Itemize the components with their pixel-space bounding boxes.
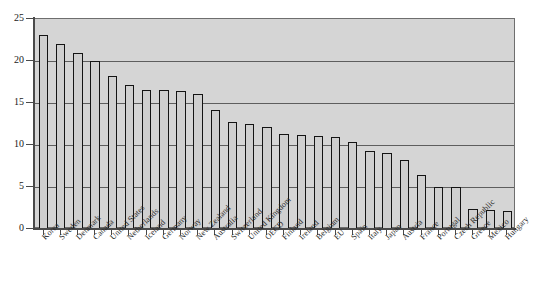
bar [314,136,323,229]
y-tick-label: 15 [2,97,24,107]
y-tick-label: 5 [2,181,24,191]
bar [365,151,374,229]
bar [90,61,99,229]
bar [297,135,306,229]
bar [400,160,409,229]
bar-chart-figure: 0510152025 KoreaSwedenDenmarkCanadaUnite… [0,0,533,295]
bar [348,142,357,229]
y-axis-tick-labels: 0510152025 [0,0,24,295]
bar [108,76,117,229]
gridline-20 [35,61,514,62]
y-tick-20 [26,60,34,61]
y-tick-25 [26,18,34,19]
y-tick-label: 0 [2,223,24,233]
y-tick-label: 10 [2,139,24,149]
bar [159,90,168,229]
y-tick-label: 25 [2,13,24,23]
plot-area [34,18,515,228]
bar [56,44,65,229]
bar [279,134,288,229]
bar [193,94,202,229]
y-tick-label: 20 [2,55,24,65]
bar [125,85,134,229]
bar [73,53,82,229]
bar [382,153,391,229]
bar [176,91,185,229]
bar [39,35,48,229]
y-axis-line [33,17,35,229]
y-tick-5 [26,186,34,187]
y-tick-0 [26,228,34,229]
y-tick-10 [26,144,34,145]
y-tick-15 [26,102,34,103]
